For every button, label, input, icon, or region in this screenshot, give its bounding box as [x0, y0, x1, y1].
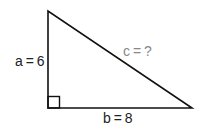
hypotenuse-label: c = ?: [123, 45, 151, 58]
right-angle-marker: [48, 97, 60, 109]
side-a-label: a = 6: [15, 55, 44, 68]
triangle-diagram: a = 6 b = 8 c = ?: [0, 0, 200, 135]
side-b-label: b = 8: [103, 112, 132, 125]
right-triangle: [48, 11, 192, 108]
